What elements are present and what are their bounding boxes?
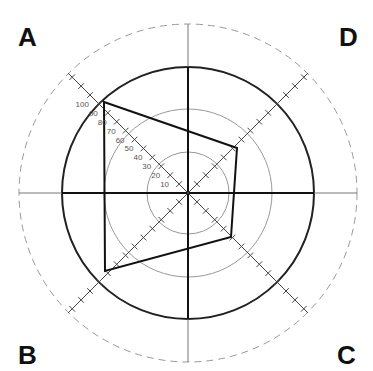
scale-tick-label: 60 [116,136,125,145]
corner-label-b: B [18,340,37,371]
corner-label-d: D [339,22,358,53]
scale-tick-label: 100 [76,100,90,109]
scale-tick-label: 40 [133,153,142,162]
corner-label-a: A [18,22,37,53]
scale-tick-label: 90 [89,109,98,118]
scale-tick-label: 70 [107,127,116,136]
radar-diagram: 102030405060708090100 [0,0,373,371]
scale-tick-label: 30 [142,162,151,171]
scale-tick-label: 50 [125,144,134,153]
scale-tick-label: 10 [160,180,169,189]
corner-label-c: C [337,340,356,371]
scale-tick-label: 20 [151,171,160,180]
scale-tick-label: 80 [98,118,107,127]
data-polygon [104,102,237,271]
